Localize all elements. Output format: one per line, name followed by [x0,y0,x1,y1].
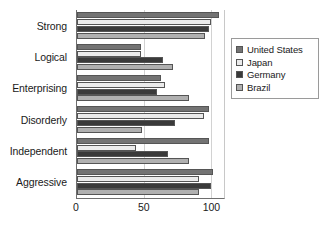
legend-label: United States [247,44,303,55]
bar-row [77,158,224,164]
bar [77,57,163,63]
bar [77,113,204,119]
bar [77,151,168,157]
bar-group [77,73,224,104]
bar [77,169,213,175]
bar-row [77,12,224,18]
bar-row [77,26,224,32]
legend-item: Germany [236,69,313,81]
category-label: Logical [0,41,72,72]
bars-layer [77,10,224,198]
bar-group [77,135,224,166]
bar-row [77,151,224,157]
bar-row [77,106,224,112]
x-tick-label: 50 [138,201,150,213]
bar [77,176,199,182]
legend-item: United States [236,44,313,56]
legend-swatch-icon [236,71,243,78]
category-label: Independent [0,135,72,166]
bar-chart: StrongLogicalEnterprisingDisorderlyIndep… [0,0,326,227]
legend-label: Japan [247,57,272,68]
bar-row [77,120,224,126]
plot-area [76,10,225,199]
bar [77,158,189,164]
bar-row [77,82,224,88]
bar-row [77,64,224,70]
bar [77,183,211,189]
bar-row [77,138,224,144]
category-label: Enterprising [0,73,72,104]
bar [77,44,141,50]
bar [77,26,209,32]
bar-group [77,104,224,135]
category-label: Aggressive [0,167,72,198]
legend-swatch-icon [236,59,243,66]
bar [77,120,175,126]
category-label: Strong [0,10,72,41]
bar-row [77,33,224,39]
x-axis: 050100 [76,201,225,221]
bar [77,189,199,195]
category-label: Disorderly [0,104,72,135]
bar-row [77,113,224,119]
bar-group [77,167,224,198]
bar-row [77,189,224,195]
bar [77,127,142,133]
chart-legend: United StatesJapanGermanyBrazil [231,38,319,99]
bar [77,95,189,101]
bar-row [77,57,224,63]
bar-row [77,51,224,57]
bar [77,82,165,88]
bar-row [77,89,224,95]
bar-row [77,95,224,101]
bar [77,89,157,95]
x-tick-label: 0 [73,201,79,213]
bar-row [77,145,224,151]
bar [77,138,209,144]
legend-swatch-icon [236,84,243,91]
bar-row [77,183,224,189]
bar-row [77,176,224,182]
bar [77,106,209,112]
bar-row [77,127,224,133]
bar-group [77,10,224,41]
legend-item: Brazil [236,81,313,93]
legend-swatch-icon [236,46,243,53]
bar-row [77,75,224,81]
category-axis: StrongLogicalEnterprisingDisorderlyIndep… [0,10,72,198]
bar-group [77,41,224,72]
bar [77,12,219,18]
bar-row [77,19,224,25]
bar-row [77,44,224,50]
bar [77,51,141,57]
bar [77,145,136,151]
x-tick-label: 100 [203,201,221,213]
bar-row [77,169,224,175]
bar [77,64,173,70]
bar [77,19,211,25]
legend-label: Brazil [247,82,270,93]
legend-label: Germany [247,69,285,80]
bar [77,33,205,39]
legend-item: Japan [236,56,313,68]
bar [77,75,161,81]
